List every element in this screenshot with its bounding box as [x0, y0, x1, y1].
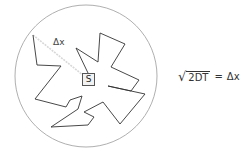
- formula-equals: =: [214, 71, 222, 82]
- diffusion-formula: √ 2DT = Δx: [178, 69, 240, 84]
- formula-radicand: 2DT: [186, 71, 210, 83]
- sqrt-icon: √: [178, 69, 186, 84]
- source-box: S: [82, 73, 95, 86]
- displacement-label: Δx: [53, 37, 64, 47]
- formula-rhs: Δx: [227, 71, 240, 82]
